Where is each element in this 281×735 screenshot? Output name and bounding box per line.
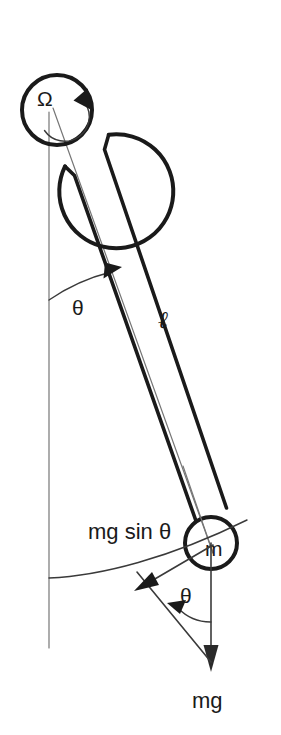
theta-bottom-label: θ	[180, 584, 192, 607]
length-label: ℓ	[158, 307, 168, 333]
tangential-force-label: mg sin θ	[88, 519, 171, 544]
theta-top-label: θ	[72, 296, 84, 319]
pendulum-diagram-canvas: Ω θ ℓ m θ mg sin θ mg	[0, 0, 281, 735]
weight-label: mg	[192, 688, 223, 713]
pendulum-diagram: Ω θ ℓ m θ mg sin θ mg	[0, 0, 281, 735]
omega-label: Ω	[37, 87, 53, 110]
